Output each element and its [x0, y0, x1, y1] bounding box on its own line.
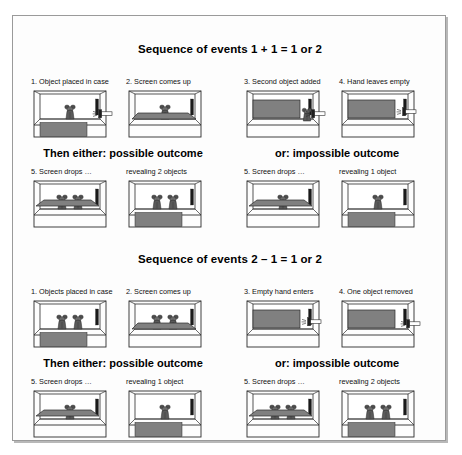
stage-panel	[126, 89, 208, 141]
case-front-panel	[135, 213, 182, 227]
case-front-panel	[40, 123, 87, 137]
stage-panel	[339, 89, 421, 141]
stage-panel	[244, 89, 326, 141]
stage-panel	[31, 299, 113, 351]
outcome-stage-panel	[126, 179, 208, 231]
occluder-screen	[249, 200, 312, 206]
outcome-step-label: revealing 2 objects	[126, 167, 187, 176]
occluder-screen	[36, 200, 99, 206]
figure-frame: Sequence of events 1 + 1 = 1 or 21. Obje…	[12, 15, 446, 441]
occluder-screen	[348, 100, 395, 118]
occluder-screen	[253, 310, 300, 328]
outcome-banner-possible: Then either: possible outcome	[21, 357, 225, 369]
step-label: 2. Screen comes up	[126, 287, 191, 296]
occluder-screen	[253, 100, 300, 118]
outcome-banner-impossible: or: impossible outcome	[235, 147, 439, 159]
step-label: 4. Hand leaves empty	[339, 77, 410, 86]
outcome-step-label: 5. Screen drops …	[244, 167, 305, 176]
case-front-panel	[40, 333, 87, 347]
case-front-panel	[135, 423, 182, 437]
outcome-stage-panel	[31, 389, 113, 441]
outcome-stage-panel	[339, 389, 421, 441]
outcome-step-label: 5. Screen drops …	[31, 167, 92, 176]
occluder-screen	[36, 410, 99, 416]
occluder-screen	[348, 310, 395, 328]
case-front-panel	[348, 423, 395, 437]
stage-panel	[31, 89, 113, 141]
stage-panel	[126, 299, 208, 351]
outcome-stage-panel	[244, 389, 326, 441]
step-label: 1. Object placed in case	[31, 77, 109, 86]
outcome-step-label: revealing 2 objects	[339, 377, 400, 386]
step-label: 4. One object removed	[339, 287, 413, 296]
outcome-step-label: 5. Screen drops …	[31, 377, 92, 386]
step-label: 3. Second object added	[244, 77, 321, 86]
outcome-step-label: revealing 1 object	[126, 377, 183, 386]
outcome-stage-panel	[339, 179, 421, 231]
outcome-stage-panel	[31, 179, 113, 231]
step-label: 1. Objects placed in case	[31, 287, 113, 296]
outcome-banner-impossible: or: impossible outcome	[235, 357, 439, 369]
stage-panel	[244, 299, 326, 351]
step-label: 2. Screen comes up	[126, 77, 191, 86]
figure-root: Sequence of events 1 + 1 = 1 or 21. Obje…	[0, 0, 462, 455]
sequence-heading: Sequence of events 2 – 1 = 1 or 2	[13, 253, 447, 265]
outcome-stage-panel	[126, 389, 208, 441]
outcome-step-label: revealing 1 object	[339, 167, 396, 176]
occluder-screen	[132, 323, 196, 329]
outcome-stage-panel	[244, 179, 326, 231]
case-front-panel	[348, 213, 395, 227]
outcome-banner-possible: Then either: possible outcome	[21, 147, 225, 159]
step-label: 3. Empty hand enters	[244, 287, 313, 296]
sequence-heading: Sequence of events 1 + 1 = 1 or 2	[13, 43, 447, 55]
outcome-step-label: 5. Screen drops …	[244, 377, 305, 386]
stage-panel	[339, 299, 421, 351]
occluder-screen	[132, 113, 196, 119]
occluder-screen	[249, 410, 312, 416]
